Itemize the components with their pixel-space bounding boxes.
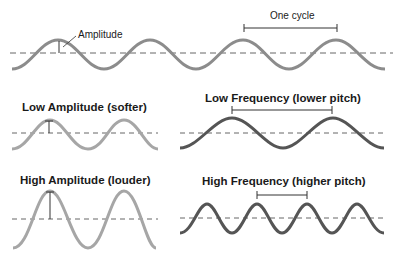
high-frequency-panel: High Frequency (higher pitch)	[180, 175, 385, 233]
amplitude-label: Amplitude	[78, 29, 123, 40]
low-amplitude-panel: Low Amplitude (softer)	[12, 101, 158, 149]
cycle-bracket	[257, 191, 307, 199]
high-amplitude-panel: High Amplitude (louder)	[12, 174, 158, 248]
one-cycle-bracket	[244, 24, 337, 32]
one-cycle-label: One cycle	[270, 10, 315, 21]
sound-wave-diagram: Amplitude One cycle Low Amplitude (softe…	[0, 0, 399, 257]
cycle-bracket	[232, 106, 332, 114]
high-amplitude-title: High Amplitude (louder)	[20, 174, 151, 186]
low-frequency-title: Low Frequency (lower pitch)	[205, 92, 361, 104]
high-frequency-title: High Frequency (higher pitch)	[202, 175, 366, 187]
low-amplitude-title: Low Amplitude (softer)	[22, 101, 147, 113]
low-amplitude-wave	[12, 120, 158, 149]
reference-wave	[12, 40, 385, 69]
low-frequency-panel: Low Frequency (lower pitch)	[180, 92, 385, 148]
reference-wave-panel: Amplitude One cycle	[10, 10, 393, 69]
